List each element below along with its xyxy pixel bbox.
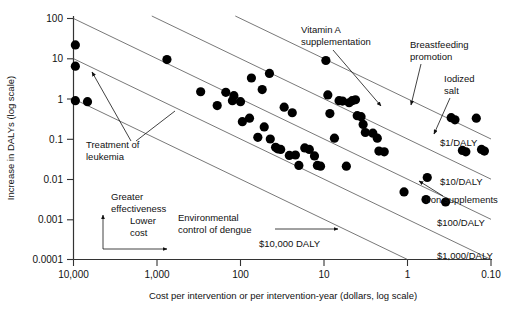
y-ticks-group: 100 10 1 0.1 0.01 0.001 0.0001 xyxy=(32,13,73,265)
dengue-label-line2: control of dengue xyxy=(178,224,251,235)
leukemia-leader-line-1 xyxy=(92,72,131,141)
data-point xyxy=(221,88,230,97)
y-tick-label-0.001: 0.001 xyxy=(38,214,63,225)
chart-figure: 100 10 1 0.1 0.01 0.001 0.0001 10,000 1,… xyxy=(0,0,516,313)
y-tick-label-1: 1 xyxy=(57,94,63,105)
leukemia-label-line2: leukemia xyxy=(86,151,125,162)
y-axis-title: Increase in DALYs (log scale) xyxy=(5,76,16,200)
greater-effectiveness-label-line1: Greater xyxy=(111,191,143,202)
data-point xyxy=(380,147,389,156)
data-point xyxy=(162,55,171,64)
data-point xyxy=(450,115,459,124)
data-point xyxy=(265,69,274,78)
data-point xyxy=(288,108,297,117)
data-point xyxy=(480,146,489,155)
data-point xyxy=(310,151,319,160)
data-point xyxy=(291,150,300,159)
iron-supplements-label: Iron supplements xyxy=(425,194,498,205)
data-point xyxy=(399,187,408,196)
breastfeeding-label-line2: promotion xyxy=(410,51,452,62)
data-points-group xyxy=(71,40,489,206)
isoline-label-10000-daly: $10,000 DALY xyxy=(259,238,321,249)
annotation-direction-arrows: Greater effectiveness Lower cost xyxy=(103,191,167,249)
data-point xyxy=(280,103,289,112)
breastfeeding-label-line1: Breastfeeding xyxy=(410,39,469,50)
data-point xyxy=(373,134,382,143)
y-tick-label-100: 100 xyxy=(46,13,63,24)
x-tick-label-1000: 1,000 xyxy=(144,269,169,280)
x-axis-title: Cost per intervention or per interventio… xyxy=(149,290,417,301)
data-point xyxy=(83,97,92,106)
y-tick-label-0.01: 0.01 xyxy=(44,174,64,185)
data-point xyxy=(461,147,470,156)
isoline-label-100-daly: $100/DALY xyxy=(437,217,486,228)
isoline-label-10-daly: $10/DALY xyxy=(440,176,483,187)
data-point xyxy=(260,122,269,131)
data-point xyxy=(472,114,481,123)
scatter-plot-svg: 100 10 1 0.1 0.01 0.001 0.0001 10,000 1,… xyxy=(0,0,516,313)
data-point xyxy=(71,96,80,105)
data-point xyxy=(294,161,303,170)
iodized-salt-label-line2: salt xyxy=(444,85,459,96)
x-tick-label-10: 10 xyxy=(318,269,330,280)
vitamin-a-label-line2: supplementation xyxy=(301,36,371,47)
data-point xyxy=(276,145,285,154)
data-point xyxy=(247,73,256,82)
data-point xyxy=(196,87,205,96)
data-point xyxy=(266,134,275,143)
data-point xyxy=(330,134,339,143)
annotation-environmental-control-of-dengue: Environmental control of dengue xyxy=(178,212,338,235)
data-point xyxy=(236,97,245,106)
data-point xyxy=(228,96,237,105)
data-point xyxy=(356,112,365,121)
data-point xyxy=(321,56,330,65)
data-point xyxy=(323,90,332,99)
dengue-label-line1: Environmental xyxy=(178,212,239,223)
data-point xyxy=(258,85,267,94)
isoline-label-1000-daly: $1,000/DALY xyxy=(437,250,493,261)
y-tick-label-0.1: 0.1 xyxy=(49,134,63,145)
annotation-treatment-of-leukemia: Treatment of leukemia xyxy=(86,72,175,162)
data-point xyxy=(359,120,368,129)
data-point xyxy=(316,162,325,171)
x-tick-label-0.10: 0.10 xyxy=(481,269,501,280)
y-tick-label-10: 10 xyxy=(52,53,64,64)
data-point xyxy=(71,40,80,49)
data-point xyxy=(423,173,432,182)
y-tick-label-0.0001: 0.0001 xyxy=(32,254,63,265)
leukemia-label-line1: Treatment of xyxy=(86,139,140,150)
annotation-iodized-salt: Iodized salt xyxy=(434,73,475,134)
iodized-salt-label-line1: Iodized xyxy=(444,73,475,84)
leukemia-leader-line-2 xyxy=(136,111,175,141)
data-point xyxy=(351,95,360,104)
data-point xyxy=(71,62,80,71)
isoline-label-1-daly: $1/DALY xyxy=(440,137,478,148)
x-tick-label-100: 100 xyxy=(232,269,249,280)
lower-cost-label-line1: Lower xyxy=(130,215,156,226)
greater-effectiveness-label-line2: effectiveness xyxy=(111,203,167,214)
annotation-breastfeeding: Breastfeeding promotion xyxy=(410,39,469,105)
data-point xyxy=(253,133,262,142)
x-tick-label-10000: 10,000 xyxy=(58,269,89,280)
data-point xyxy=(342,162,351,171)
vitamin-a-label-line1: Vitamin A xyxy=(301,24,342,35)
data-point xyxy=(325,109,334,118)
data-point xyxy=(213,101,222,110)
x-ticks-group: 10,000 1,000 100 10 1 0.10 xyxy=(58,260,501,281)
lower-cost-label-line2: cost xyxy=(130,227,148,238)
x-tick-label-1: 1 xyxy=(405,269,411,280)
breastfeeding-leader-line xyxy=(411,64,421,105)
data-point xyxy=(245,114,254,123)
